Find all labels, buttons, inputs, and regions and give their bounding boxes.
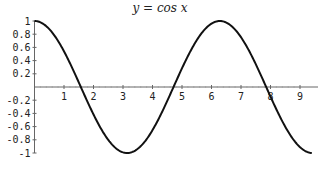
y-axis-ticks: 10.80.60.40.2-0.2-0.4-0.6-0.8-1 [6, 16, 36, 159]
y-tick-label: 1 [24, 16, 30, 27]
x-tick-label: 1 [61, 91, 67, 102]
x-tick-label: 7 [238, 91, 244, 102]
chart-canvas: y = cos x 123456789 10.80.60.40.2-0.2-0.… [0, 0, 321, 173]
y-tick-label: -0.4 [6, 108, 30, 119]
chart-container: y = cos x 123456789 10.80.60.40.2-0.2-0.… [0, 0, 321, 173]
y-tick-label: -0.6 [6, 121, 30, 132]
y-tick-label: -1 [18, 148, 30, 159]
y-tick-label: 0.2 [12, 68, 30, 79]
x-tick-label: 9 [297, 91, 303, 102]
x-tick-label: 5 [179, 91, 185, 102]
y-tick-label: 0.8 [12, 29, 30, 40]
x-axis-ticks: 123456789 [40, 85, 303, 102]
y-tick-label: 0.6 [12, 42, 30, 53]
y-tick-label: -0.2 [6, 95, 30, 106]
y-tick-label: -0.8 [6, 134, 30, 145]
x-tick-label: 4 [149, 91, 155, 102]
chart-title: y = cos x [131, 1, 187, 15]
x-tick-label: 2 [90, 91, 96, 102]
x-tick-label: 6 [208, 91, 214, 102]
x-tick-label: 3 [120, 91, 126, 102]
y-tick-label: 0.4 [12, 55, 30, 66]
